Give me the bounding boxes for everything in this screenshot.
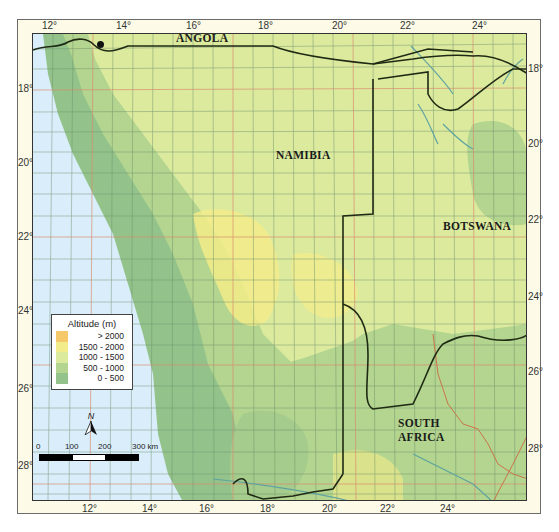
lat-tick-right: 18° — [528, 64, 543, 74]
lon-tick-bottom: 14° — [142, 504, 157, 514]
lon-tick-bottom: 20° — [322, 504, 337, 514]
scale-segment — [105, 455, 138, 460]
scale-segment — [73, 455, 106, 460]
legend-label: 0 - 500 — [68, 373, 128, 383]
altitude-legend: Altitude (m) > 2000 1500 - 2000 1000 - 1… — [51, 314, 133, 390]
legend-label: > 2000 — [68, 331, 128, 341]
lat-tick-right: 28° — [528, 444, 543, 454]
legend-swatch — [56, 363, 68, 374]
lat-tick-left: 18° — [18, 84, 33, 94]
scale-segment — [40, 455, 73, 460]
country-label-africa: AFRICA — [398, 431, 445, 444]
lon-tick-bottom: 24° — [440, 504, 455, 514]
lat-tick-right: 22° — [528, 215, 543, 225]
legend-item: 1000 - 1500 — [56, 352, 128, 363]
lon-tick-bottom: 18° — [260, 504, 275, 514]
legend-label: 1500 - 2000 — [68, 342, 128, 352]
legend-swatch — [56, 331, 68, 342]
lon-tick-top: 12° — [42, 21, 57, 31]
scale-label: 300 km — [132, 443, 158, 451]
lat-tick-left: 22° — [18, 232, 33, 242]
legend-label: 500 - 1000 — [68, 363, 128, 373]
lon-tick-bottom: 16° — [199, 504, 214, 514]
legend-item: > 2000 — [56, 331, 128, 342]
legend-item: 500 - 1000 — [56, 363, 128, 374]
lon-tick-bottom: 22° — [380, 504, 395, 514]
legend-swatch — [56, 352, 68, 363]
legend-title: Altitude (m) — [56, 318, 128, 329]
legend-item: 1500 - 2000 — [56, 342, 128, 353]
legend-label: 1000 - 1500 — [68, 352, 128, 362]
north-label: N — [84, 412, 98, 421]
lat-tick-left: 24° — [18, 306, 33, 316]
country-label-namibia: NAMIBIA — [276, 149, 331, 162]
map-graphic — [33, 34, 527, 501]
scale-bar — [39, 454, 139, 461]
north-arrow: N — [84, 412, 98, 439]
lon-tick-top: 16° — [186, 21, 201, 31]
lon-tick-top: 14° — [116, 21, 131, 31]
relief-map — [32, 33, 527, 501]
legend-item: 0 - 500 — [56, 373, 128, 384]
north-arrow-icon — [84, 421, 98, 435]
legend-swatch — [56, 373, 68, 384]
scale-label: 100 — [65, 443, 78, 451]
lon-tick-top: 20° — [332, 21, 347, 31]
lon-tick-top: 24° — [472, 21, 487, 31]
scale-label: 0 — [36, 443, 40, 451]
country-label-angola: ANGOLA — [176, 32, 228, 45]
lon-tick-top: 18° — [258, 21, 273, 31]
lat-tick-right: 24° — [528, 292, 543, 302]
lon-tick-top: 22° — [400, 21, 415, 31]
lon-tick-bottom: 12° — [82, 504, 97, 514]
city-marker-icon — [97, 41, 104, 48]
country-label-south: SOUTH — [398, 417, 440, 430]
country-label-botswana: BOTSWANA — [443, 220, 511, 233]
legend-swatch — [56, 342, 68, 353]
scale-label: 200 — [98, 443, 111, 451]
lat-tick-right: 26° — [528, 367, 543, 377]
lat-tick-right: 20° — [528, 139, 543, 149]
lat-tick-left: 26° — [18, 384, 33, 394]
lat-tick-left: 28° — [18, 461, 33, 471]
lat-tick-left: 20° — [18, 158, 33, 168]
